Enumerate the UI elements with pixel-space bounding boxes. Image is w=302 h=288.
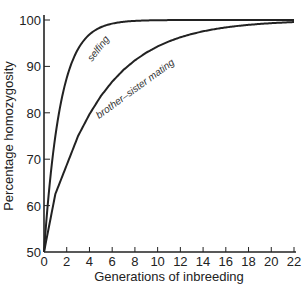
selfing-curve xyxy=(44,20,294,252)
x-tick-label: 4 xyxy=(86,254,93,269)
y-tick-label: 50 xyxy=(27,245,41,260)
x-tick-label: 2 xyxy=(63,254,70,269)
x-tick-label: 12 xyxy=(173,254,187,269)
y-tick-label: 100 xyxy=(19,13,41,28)
curves xyxy=(44,20,294,252)
selfing-label: selfing xyxy=(85,33,112,63)
y-tick-label: 60 xyxy=(27,199,41,214)
x-tick-label: 10 xyxy=(150,254,164,269)
x-tick-label: 22 xyxy=(287,254,301,269)
x-tick-label: 20 xyxy=(264,254,278,269)
x-tick-label: 6 xyxy=(109,254,116,269)
x-tick-label: 16 xyxy=(219,254,233,269)
x-tick-label: 18 xyxy=(241,254,255,269)
x-tick-label: 8 xyxy=(131,254,138,269)
y-tick-label: 70 xyxy=(27,152,41,167)
x-tick-label: 0 xyxy=(40,254,47,269)
y-tick-label: 80 xyxy=(27,106,41,121)
x-tick-label: 14 xyxy=(196,254,210,269)
x-axis-title: Generations of inbreeding xyxy=(94,269,244,284)
inbreeding-chart: 02468101214161820225060708090100 selfing… xyxy=(0,0,302,288)
y-axis-title: Percentage homozygosity xyxy=(1,61,16,211)
axes xyxy=(44,15,296,252)
ticks: 02468101214161820225060708090100 xyxy=(19,13,301,269)
y-tick-label: 90 xyxy=(27,59,41,74)
